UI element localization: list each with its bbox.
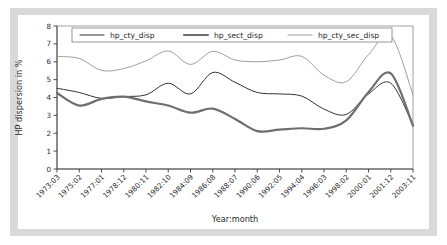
chart-figure: 0123456781973:031975:021977:011978:12198… [0, 0, 447, 245]
legend-label-hp_cty_disp: hp_cty_disp [110, 31, 155, 40]
legend-label-hp_cty_sec_disp: hp_cty_sec_disp [318, 31, 379, 40]
series-line-hp_cty_disp [57, 72, 413, 125]
y-tick-label: 1 [46, 147, 51, 156]
y-tick-label: 4 [46, 93, 51, 102]
y-tick-label: 2 [46, 129, 51, 138]
y-tick-label: 6 [46, 57, 51, 66]
x-tick-label: 2003:11 [390, 173, 417, 200]
x-axis-title: Year:month [211, 214, 259, 224]
y-tick-label: 8 [46, 22, 51, 31]
y-axis-title: HP dispersion in % [14, 59, 24, 135]
line-chart-plot: 0123456781973:031975:021977:011978:12198… [0, 0, 447, 245]
y-tick-label: 0 [46, 165, 51, 174]
y-tick-label: 5 [46, 75, 51, 84]
y-tick-label: 3 [46, 111, 51, 120]
series-line-hp_cty_sec_disp [57, 34, 413, 94]
legend-label-hp_sect_disp: hp_sect_disp [214, 31, 263, 40]
y-tick-label: 7 [46, 39, 51, 48]
series-line-hp_sect_disp [57, 72, 413, 131]
